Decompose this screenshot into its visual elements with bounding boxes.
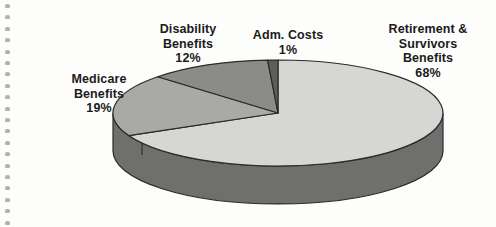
slice-label-disability-line1: Disability — [136, 22, 240, 37]
slice-label-medicare-line1: Medicare — [44, 72, 154, 87]
slice-value-retirement: 68% — [370, 66, 486, 81]
slice-label-retirement-survivors-benefits: Retirement & Survivors Benefits 68% — [370, 22, 486, 80]
pie-chart: Disability Benefits 12% Adm. Costs 1% Re… — [0, 0, 496, 227]
slice-label-retirement-line3: Benefits — [370, 51, 486, 66]
slice-value-disability: 12% — [136, 51, 240, 66]
slice-label-adm-costs: Adm. Costs 1% — [232, 28, 344, 57]
slice-label-retirement-line2: Survivors — [370, 37, 486, 52]
slice-label-medicare-benefits: Medicare Benefits 19% — [44, 72, 154, 116]
slice-value-adm-costs: 1% — [232, 43, 344, 58]
slice-label-medicare-line2: Benefits — [44, 87, 154, 102]
slice-label-retirement-line1: Retirement & — [370, 22, 486, 37]
slice-value-medicare: 19% — [44, 101, 154, 116]
pie-chart-page: Disability Benefits 12% Adm. Costs 1% Re… — [0, 0, 496, 227]
slice-label-disability-benefits: Disability Benefits 12% — [136, 22, 240, 66]
slice-label-adm-costs-line1: Adm. Costs — [232, 28, 344, 43]
slice-label-disability-line2: Benefits — [136, 37, 240, 52]
